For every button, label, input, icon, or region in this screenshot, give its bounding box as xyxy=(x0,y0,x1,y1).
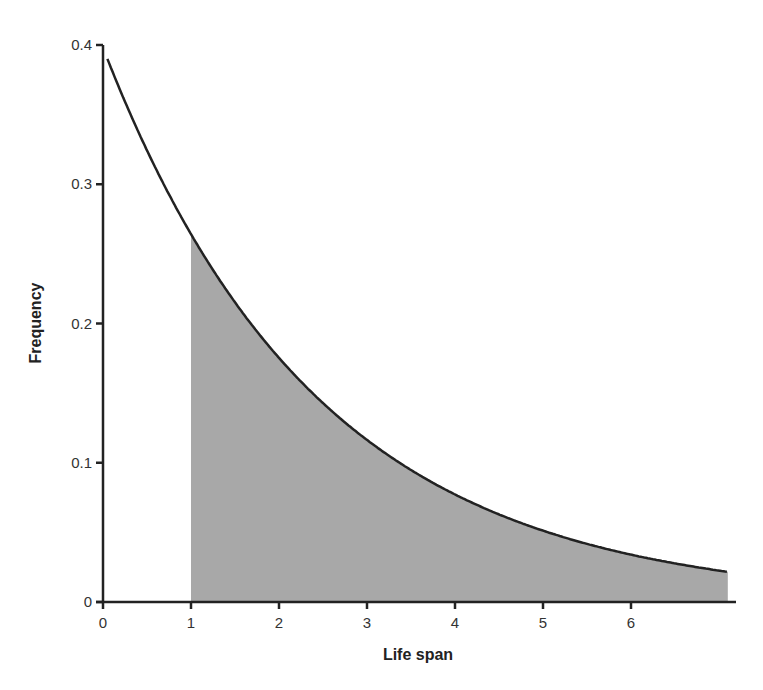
y-tick-label: 0.1 xyxy=(71,454,92,471)
y-axis-title: Frequency xyxy=(27,282,44,363)
shaded-area xyxy=(191,234,728,602)
x-ticks: 0123456 xyxy=(99,602,635,631)
x-tick-label: 5 xyxy=(539,614,547,631)
y-tick-label: 0.3 xyxy=(71,175,92,192)
x-tick-label: 2 xyxy=(275,614,283,631)
x-tick-label: 0 xyxy=(99,614,107,631)
y-tick-label: 0.2 xyxy=(71,315,92,332)
x-tick-label: 4 xyxy=(451,614,459,631)
chart: 0123456 00.10.20.30.4 Life span Frequenc… xyxy=(0,0,763,690)
y-tick-label: 0.4 xyxy=(71,36,92,53)
y-tick-label: 0 xyxy=(84,593,92,610)
x-tick-label: 6 xyxy=(627,614,635,631)
x-tick-label: 1 xyxy=(187,614,195,631)
y-ticks: 00.10.20.30.4 xyxy=(71,36,103,610)
x-tick-label: 3 xyxy=(363,614,371,631)
x-axis-title: Life span xyxy=(383,646,453,663)
